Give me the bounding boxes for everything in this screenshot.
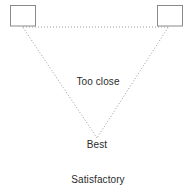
left-speaker-icon: [11, 6, 36, 27]
speaker-placement-diagram: Too close Best Satisfactory: [0, 0, 191, 193]
too-close-label: Too close: [76, 76, 119, 87]
best-label: Best: [87, 139, 107, 150]
right-speaker-icon: [158, 6, 183, 27]
diagram-canvas: [0, 0, 191, 193]
satisfactory-label: Satisfactory: [71, 174, 124, 185]
